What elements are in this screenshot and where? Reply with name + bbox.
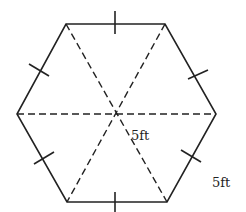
hexagon-diagram bbox=[0, 0, 246, 212]
side-label: 5ft bbox=[212, 175, 230, 190]
dashed-diagonals bbox=[17, 24, 216, 202]
radius-label: 5ft bbox=[131, 128, 149, 143]
diagonal-up bbox=[67, 24, 165, 202]
